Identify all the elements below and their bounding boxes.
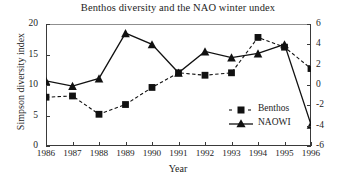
y-tick-label-right: 6: [316, 19, 340, 29]
y-tick-label-right: -2: [316, 100, 340, 110]
data-point-benthos: [308, 65, 311, 72]
y-tick-left: [46, 55, 50, 56]
data-point-naowi: [201, 47, 210, 55]
x-tick: [126, 142, 127, 146]
x-tick: [311, 142, 312, 146]
x-tick: [205, 142, 206, 146]
chart-title: Benthos diversity and the NAO winter und…: [0, 2, 356, 13]
y-tick-right: [307, 126, 311, 127]
legend-label-naowi: NAOWI: [258, 117, 291, 127]
y-tick-left: [46, 24, 50, 25]
legend-item-benthos: Benthos: [228, 101, 291, 115]
y-tick-label-right: 4: [316, 39, 340, 49]
y-tick-label-left: 5: [14, 111, 38, 121]
y-tick-left: [46, 146, 50, 147]
x-tick: [152, 142, 153, 146]
data-point-naowi: [121, 29, 130, 37]
y-tick-right: [307, 105, 311, 106]
y-tick-label-right: -4: [316, 121, 340, 131]
legend-marker-square-dashed-icon: [228, 102, 254, 114]
x-tick: [99, 142, 100, 146]
y-tick-label-right: 2: [316, 60, 340, 70]
chart-figure: Benthos diversity and the NAO winter und…: [0, 0, 356, 180]
y-tick-label-left: 15: [14, 50, 38, 60]
y-tick-left: [46, 116, 50, 117]
data-point-benthos: [149, 84, 156, 91]
x-tick: [258, 142, 259, 146]
y-tick-right: [307, 146, 311, 147]
y-tick-right: [307, 65, 311, 66]
x-axis-label: Year: [0, 163, 356, 174]
x-tick: [179, 142, 180, 146]
y-tick-label-left: 10: [14, 80, 38, 90]
data-point-benthos: [228, 69, 235, 76]
data-point-benthos: [46, 94, 49, 101]
x-tick: [285, 142, 286, 146]
data-point-benthos: [255, 34, 262, 41]
y-tick-right: [307, 24, 311, 25]
data-point-benthos: [69, 93, 76, 100]
data-point-naowi: [95, 74, 104, 82]
legend-item-naowi: NAOWI: [228, 115, 291, 129]
x-tick: [46, 142, 47, 146]
data-point-benthos: [96, 111, 103, 118]
data-point-benthos: [202, 72, 209, 79]
data-point-benthos: [122, 101, 129, 108]
data-point-naowi: [148, 40, 157, 48]
chart-legend: Benthos NAOWI: [228, 101, 291, 129]
x-tick: [73, 142, 74, 146]
y-tick-right: [307, 85, 311, 86]
y-tick-left: [46, 85, 50, 86]
legend-label-benthos: Benthos: [258, 103, 289, 113]
y-tick-label-left: 20: [14, 19, 38, 29]
legend-marker-triangle-solid-icon: [228, 116, 254, 128]
x-tick-label: 1996: [294, 149, 328, 158]
data-point-naowi: [307, 120, 311, 128]
y-tick-right: [307, 44, 311, 45]
y-tick-label-right: 0: [316, 80, 340, 90]
x-tick: [232, 142, 233, 146]
